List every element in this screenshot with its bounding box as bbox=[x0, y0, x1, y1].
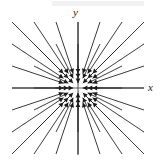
arrow-head bbox=[88, 103, 93, 108]
field-arrow bbox=[56, 103, 74, 154]
field-arrow bbox=[93, 66, 144, 84]
arrow-head bbox=[93, 98, 98, 103]
field-arrow bbox=[12, 66, 63, 84]
arrow-shaft bbox=[93, 98, 144, 132]
field-arrow bbox=[56, 22, 74, 73]
arrow-shaft bbox=[12, 93, 63, 110]
field-arrow bbox=[93, 103, 144, 154]
arrow-shaft bbox=[56, 103, 73, 154]
field-arrow bbox=[12, 44, 63, 78]
field-arrow bbox=[93, 86, 144, 91]
arrow-head bbox=[58, 74, 63, 79]
vector-field-plot bbox=[0, 0, 164, 162]
arrow-shaft bbox=[12, 66, 63, 83]
arrow-head bbox=[83, 86, 88, 91]
y-axis-label: y bbox=[73, 7, 78, 18]
arrow-shaft bbox=[83, 22, 100, 73]
x-axis-label: x bbox=[148, 82, 153, 93]
arrow-shaft bbox=[12, 44, 63, 78]
arrow-head bbox=[58, 98, 63, 103]
arrow-head bbox=[64, 68, 69, 73]
arrow-head bbox=[76, 98, 81, 103]
arrow-shaft bbox=[93, 93, 144, 110]
field-arrow bbox=[76, 103, 81, 154]
arrow-head bbox=[64, 103, 69, 108]
arrow-head bbox=[88, 86, 93, 91]
arrow-shaft bbox=[88, 103, 122, 154]
arrow-shaft bbox=[56, 22, 73, 73]
arrow-head bbox=[93, 74, 98, 79]
field-arrow bbox=[93, 98, 144, 132]
vector-field-figure: y x bbox=[0, 0, 164, 162]
field-arrow bbox=[93, 44, 144, 78]
field-arrow bbox=[12, 92, 63, 110]
arrow-head bbox=[76, 103, 81, 108]
field-arrow bbox=[12, 98, 63, 132]
arrow-shaft bbox=[12, 98, 63, 132]
arrow-shaft bbox=[83, 103, 100, 154]
arrow-head bbox=[93, 86, 98, 91]
field-arrow bbox=[12, 103, 63, 154]
arrow-shaft bbox=[93, 103, 144, 154]
field-arrow bbox=[82, 103, 100, 154]
arrow-head bbox=[69, 86, 74, 91]
arrow-head bbox=[76, 79, 81, 84]
arrow-shaft bbox=[93, 66, 144, 83]
field-arrow bbox=[88, 103, 122, 154]
arrow-shaft bbox=[12, 103, 63, 154]
field-arrow bbox=[88, 22, 122, 73]
field-arrow bbox=[82, 22, 100, 73]
arrow-head bbox=[88, 68, 93, 73]
arrow-shaft bbox=[88, 22, 122, 73]
field-arrow bbox=[93, 92, 144, 110]
arrow-shaft bbox=[34, 103, 68, 154]
arrow-shaft bbox=[34, 22, 68, 73]
arrow-shaft bbox=[93, 44, 144, 78]
arrow-head bbox=[76, 93, 81, 98]
field-arrow bbox=[34, 103, 68, 154]
field-arrow bbox=[34, 22, 68, 73]
